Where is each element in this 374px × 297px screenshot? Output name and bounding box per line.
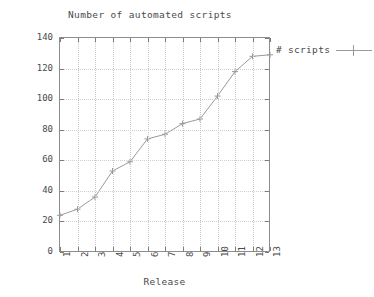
y-axis-tick-label: 140 (0, 33, 53, 42)
x-axis-tick-label: 7 (168, 252, 177, 257)
x-axis-label: Release (59, 276, 270, 287)
gridline-vertical (218, 38, 219, 251)
x-axis-tick (218, 38, 219, 42)
x-axis-tick (183, 38, 184, 42)
x-axis-tick (60, 247, 61, 251)
x-axis-tick (200, 38, 201, 42)
y-axis-tick (265, 99, 269, 100)
x-axis-tick-label: 4 (116, 252, 125, 257)
x-axis-tick (218, 247, 219, 251)
y-axis-tick (265, 38, 269, 39)
x-axis-tick-label: 6 (151, 252, 160, 257)
x-axis-tick (130, 247, 131, 251)
gridline-vertical (253, 38, 254, 251)
y-axis-tick-label: 120 (0, 64, 53, 73)
gridline-vertical (78, 38, 79, 251)
x-axis-tick (165, 247, 166, 251)
x-axis-tick (165, 38, 166, 42)
x-axis-tick-label: 2 (81, 252, 90, 257)
x-axis-tick (235, 247, 236, 251)
x-axis-tick (113, 247, 114, 251)
x-axis-tick-label: 5 (133, 252, 142, 257)
y-axis-tick (265, 160, 269, 161)
x-axis-tick-label: 9 (203, 252, 212, 257)
x-axis-tick (78, 247, 79, 251)
data-point-marker (267, 52, 273, 58)
x-axis-tick (78, 38, 79, 42)
gridline-vertical (235, 38, 236, 251)
x-axis-tick (148, 38, 149, 42)
y-axis-tick (265, 191, 269, 192)
y-axis-tick (60, 221, 64, 222)
y-axis-tick-label: 100 (0, 94, 53, 103)
x-axis-tick (60, 38, 61, 42)
gridline-vertical (95, 38, 96, 251)
plot-area (59, 37, 270, 252)
x-axis-tick (95, 247, 96, 251)
gridline-vertical (200, 38, 201, 251)
gridline-vertical (130, 38, 131, 251)
y-axis-tick-label: 40 (0, 186, 53, 195)
y-axis-tick (60, 160, 64, 161)
x-axis-tick-label: 11 (238, 246, 247, 257)
x-axis-tick (235, 38, 236, 42)
y-axis-tick (265, 221, 269, 222)
x-axis-tick-label: 13 (273, 246, 282, 257)
y-axis-tick (60, 130, 64, 131)
gridline-vertical (165, 38, 166, 251)
x-axis-tick (148, 247, 149, 251)
chart-title: Number of automated scripts (0, 9, 300, 20)
y-axis-tick (60, 69, 64, 70)
y-axis-tick (265, 252, 269, 253)
y-axis-tick (60, 99, 64, 100)
gridline-vertical (183, 38, 184, 251)
data-point-marker (57, 212, 63, 218)
x-axis-tick-label: 3 (98, 252, 107, 257)
x-axis-tick (113, 38, 114, 42)
y-axis-tick (265, 130, 269, 131)
x-axis-tick-label: 10 (221, 246, 230, 257)
x-axis-tick (95, 38, 96, 42)
x-axis-tick (200, 247, 201, 251)
x-axis-tick-label: 12 (256, 246, 265, 257)
y-axis-tick-label: 80 (0, 125, 53, 134)
x-axis-tick (270, 247, 271, 251)
y-axis-tick-label: 20 (0, 216, 53, 225)
x-axis-tick (270, 38, 271, 42)
y-axis-tick (265, 69, 269, 70)
x-axis-tick-label: 8 (186, 252, 195, 257)
chart-container: Number of automated scripts # scripts Re… (0, 0, 374, 297)
y-axis-tick (60, 191, 64, 192)
x-axis-tick (253, 38, 254, 42)
chart-legend: # scripts (276, 44, 372, 55)
x-axis-tick-label: 1 (63, 252, 72, 257)
x-axis-tick (253, 247, 254, 251)
y-axis-tick-label: 0 (0, 247, 53, 256)
legend-entry-label: # scripts (276, 44, 330, 55)
x-axis-tick (130, 38, 131, 42)
x-axis-tick (183, 247, 184, 251)
y-axis-tick-label: 60 (0, 155, 53, 164)
gridline-vertical (113, 38, 114, 251)
gridline-vertical (148, 38, 149, 251)
plus-line-marker-icon (336, 45, 372, 55)
